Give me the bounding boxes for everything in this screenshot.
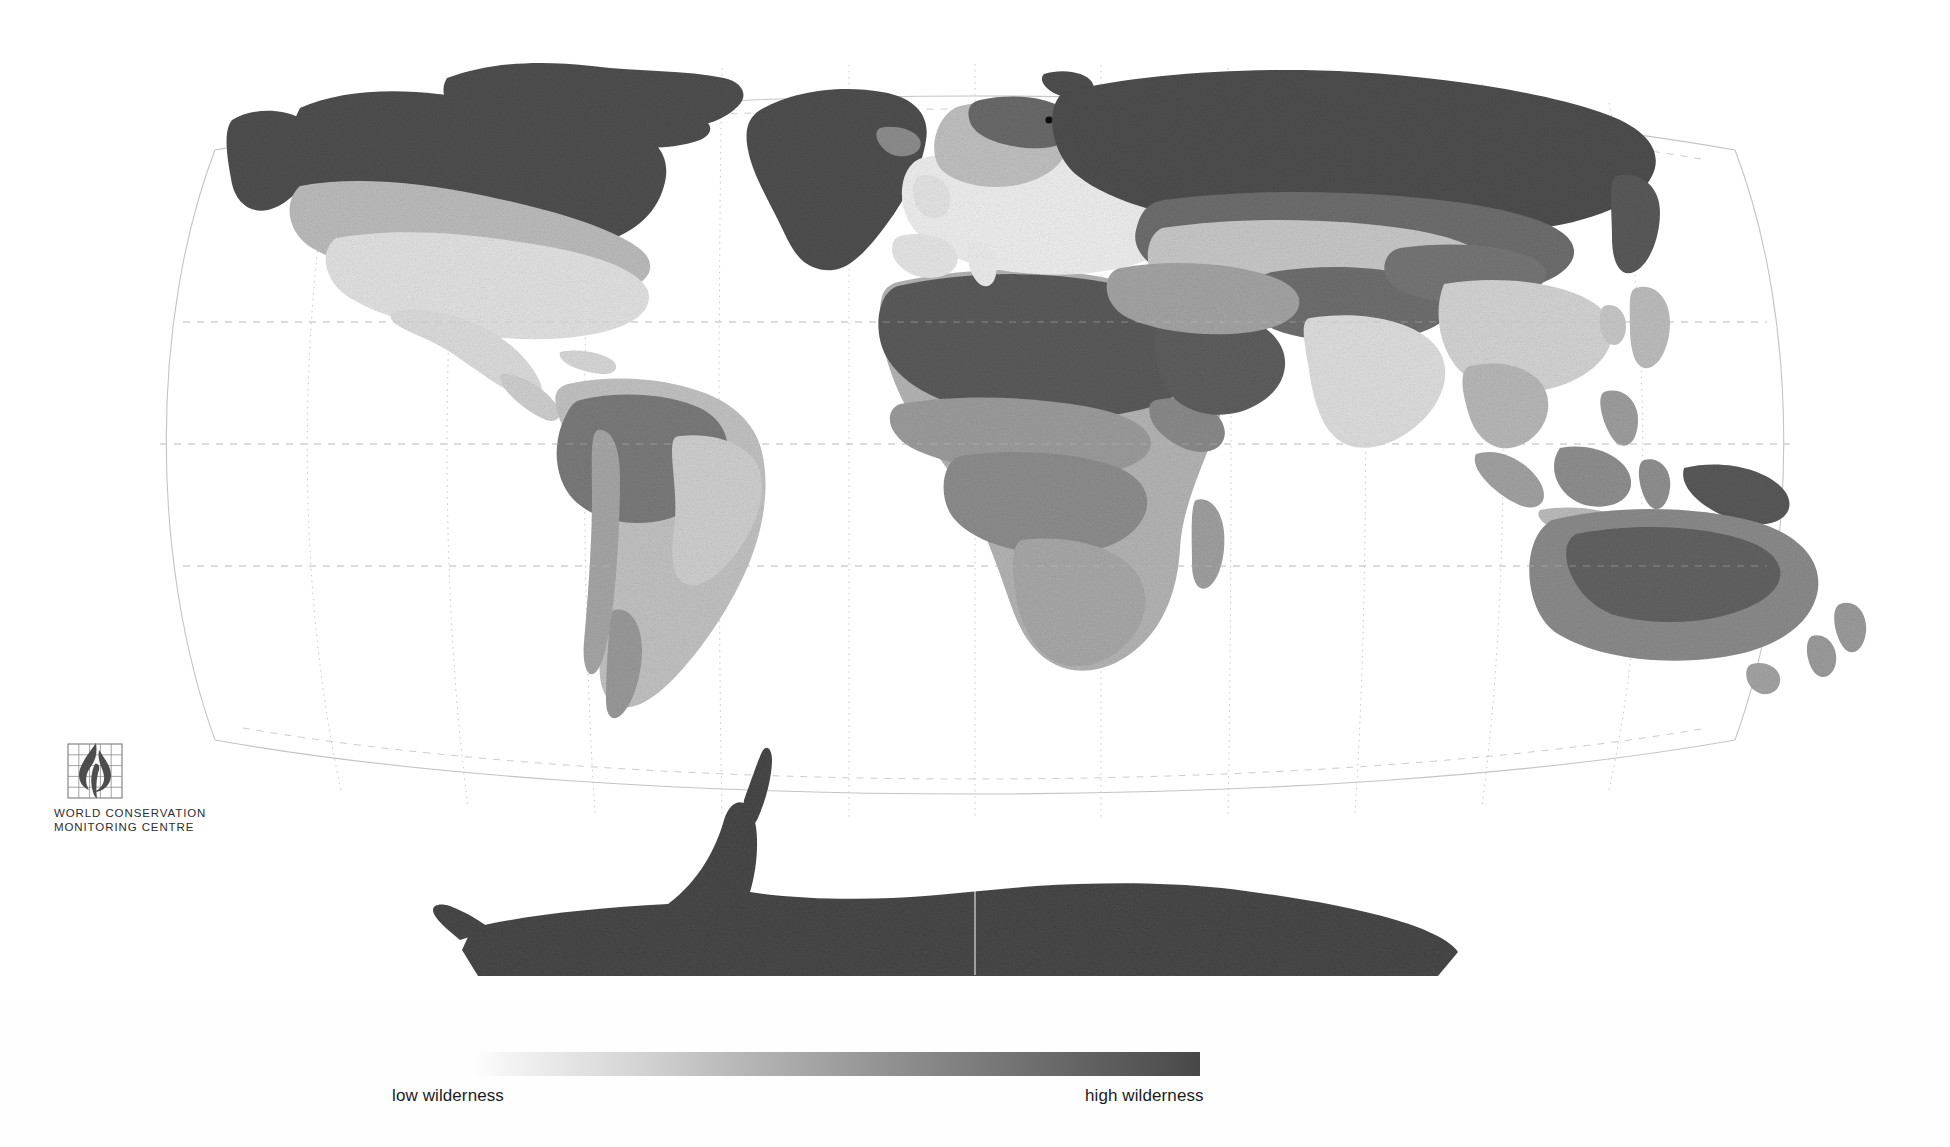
legend-gradient-bar <box>470 1052 1200 1076</box>
world-wilderness-map <box>0 0 1950 1000</box>
legend-label-row: low wilderness high wilderness <box>470 1086 1200 1110</box>
wilderness-legend: low wilderness high wilderness <box>470 1052 1200 1110</box>
wcmc-logo-block: WORLD CONSERVATION MONITORING CENTRE <box>52 742 222 834</box>
legend-label-high: high wilderness <box>1085 1086 1204 1106</box>
wcmc-logo-text: WORLD CONSERVATION MONITORING CENTRE <box>54 807 222 834</box>
wcmc-flame-grid-logo-icon <box>66 742 124 800</box>
marker-point-cambridge <box>1045 116 1052 123</box>
legend-label-low: low wilderness <box>392 1086 504 1106</box>
map-page: WORLD CONSERVATION MONITORING CENTRE low… <box>0 0 1950 1147</box>
map-svg <box>0 0 1950 1000</box>
